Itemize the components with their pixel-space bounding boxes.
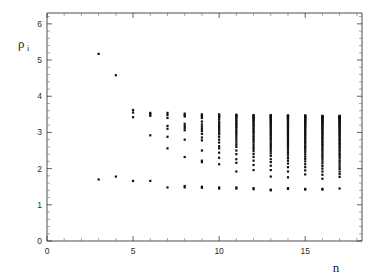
y-axis-tick-labels: 0123456 <box>37 19 42 246</box>
data-point <box>201 133 203 135</box>
data-points <box>98 53 341 192</box>
data-point <box>321 158 323 160</box>
data-point <box>235 141 237 143</box>
data-point <box>201 120 203 122</box>
data-point <box>321 178 323 180</box>
data-point <box>201 128 203 130</box>
data-point <box>201 149 203 151</box>
data-point <box>132 109 134 111</box>
data-point <box>218 136 220 138</box>
data-point <box>270 175 272 177</box>
data-point <box>321 189 323 191</box>
data-point <box>201 161 203 163</box>
data-point <box>149 180 151 182</box>
data-point <box>304 156 306 158</box>
data-point <box>115 74 117 76</box>
data-point <box>201 139 203 141</box>
data-point <box>218 157 220 159</box>
data-point <box>339 161 341 163</box>
data-point <box>184 139 186 141</box>
data-point <box>304 151 306 153</box>
data-point <box>339 168 341 170</box>
data-point <box>270 158 272 160</box>
data-point <box>149 115 151 117</box>
data-point <box>321 162 323 164</box>
data-point <box>270 165 272 167</box>
data-point <box>252 153 254 155</box>
data-point <box>287 157 289 159</box>
data-point <box>270 146 272 148</box>
x-tick-label: 5 <box>131 246 136 256</box>
data-point <box>218 141 220 143</box>
data-point <box>304 166 306 168</box>
y-tick-label: 6 <box>37 19 42 29</box>
data-point <box>166 186 168 188</box>
data-point <box>321 168 323 170</box>
data-point <box>132 116 134 118</box>
data-point <box>235 135 237 137</box>
data-point <box>184 156 186 158</box>
scatter-plot-figure: 051015 0123456 n ρ i <box>0 0 375 277</box>
data-point <box>339 166 341 168</box>
data-point <box>304 153 306 155</box>
data-point <box>115 175 117 177</box>
data-point <box>166 114 168 116</box>
data-point <box>321 174 323 176</box>
data-point <box>201 187 203 189</box>
data-point <box>321 170 323 172</box>
data-point <box>287 154 289 156</box>
x-axis-tick-labels: 051015 <box>45 246 311 256</box>
data-point <box>252 141 254 143</box>
data-point <box>218 187 220 189</box>
data-point <box>270 189 272 191</box>
y-axis-title-subscript: i <box>27 44 30 53</box>
data-point <box>218 145 220 147</box>
data-point <box>235 158 237 160</box>
data-point <box>304 189 306 191</box>
data-point <box>218 152 220 154</box>
data-point <box>270 150 272 152</box>
data-point <box>218 147 220 149</box>
data-point <box>166 117 168 119</box>
data-point <box>339 157 341 159</box>
data-point <box>339 170 341 172</box>
data-point <box>184 186 186 188</box>
data-point <box>132 111 134 113</box>
data-point <box>252 146 254 148</box>
data-point <box>235 187 237 189</box>
y-axis-title: ρ <box>18 36 25 51</box>
data-point <box>235 133 237 135</box>
data-point <box>235 146 237 148</box>
data-point <box>166 136 168 138</box>
data-point <box>201 117 203 119</box>
data-point <box>270 155 272 157</box>
data-point <box>149 134 151 136</box>
data-point <box>287 188 289 190</box>
data-point <box>218 118 220 120</box>
data-point <box>201 123 203 125</box>
data-point <box>270 161 272 163</box>
data-point <box>270 152 272 154</box>
data-point <box>287 152 289 154</box>
data-point <box>235 139 237 141</box>
data-point <box>252 150 254 152</box>
y-tick-label: 0 <box>37 236 42 246</box>
data-point <box>235 153 237 155</box>
data-point <box>287 148 289 150</box>
x-tick-label: 15 <box>300 246 310 256</box>
data-point <box>304 160 306 162</box>
data-point <box>252 169 254 171</box>
data-point <box>252 164 254 166</box>
data-point <box>287 160 289 162</box>
data-point <box>166 128 168 130</box>
x-tick-label: 10 <box>214 246 224 256</box>
data-point <box>321 160 323 162</box>
data-point <box>218 139 220 141</box>
data-point <box>166 125 168 127</box>
data-point <box>287 176 289 178</box>
data-point <box>184 115 186 117</box>
y-tick-label: 1 <box>37 200 42 210</box>
data-point <box>201 126 203 128</box>
data-point <box>218 163 220 165</box>
data-point <box>132 180 134 182</box>
